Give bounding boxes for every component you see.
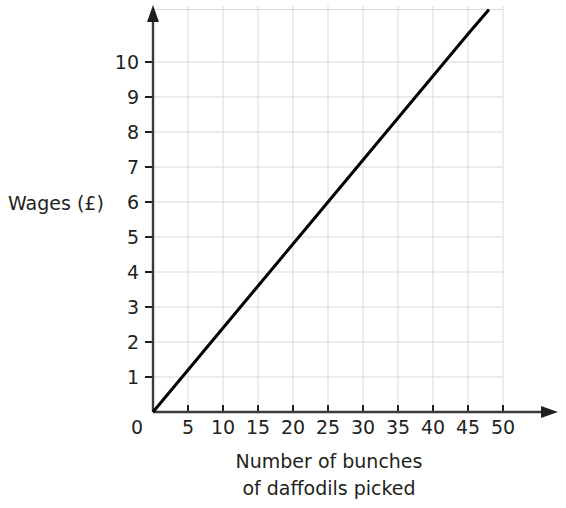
y-tick-label: 9 (127, 86, 139, 108)
chart-figure: Wages (£) 05101520253035404550 123456789… (0, 0, 566, 508)
x-tick-label: 5 (182, 416, 194, 438)
y-tick-label: 8 (127, 121, 139, 143)
y-axis-tick-labels: 12345678910 (115, 51, 139, 388)
x-tick-label: 20 (281, 416, 305, 438)
x-tick-label: 50 (491, 416, 515, 438)
y-tick-label: 3 (127, 296, 139, 318)
x-axis-tick-labels: 05101520253035404550 (131, 416, 515, 438)
data-series-line (153, 10, 489, 413)
y-tick-label: 4 (127, 261, 139, 283)
x-axis-label-line2: of daffodils picked (153, 475, 505, 502)
x-tick-label: 45 (456, 416, 480, 438)
x-axis-arrow-icon (541, 406, 558, 418)
x-tick-label: 25 (316, 416, 340, 438)
y-tick-label: 1 (127, 366, 139, 388)
chart-plot-area: 05101520253035404550 12345678910 (0, 0, 566, 508)
x-tick-label: 15 (246, 416, 270, 438)
x-tick-label: 40 (421, 416, 445, 438)
y-tick-label: 7 (127, 156, 139, 178)
y-axis-arrow-icon (147, 5, 159, 22)
x-tick-label: 30 (351, 416, 375, 438)
x-tick-label: 10 (211, 416, 235, 438)
y-tick-label: 2 (127, 331, 139, 353)
x-tick-label: 0 (131, 416, 143, 438)
x-axis-label: Number of bunches of daffodils picked (153, 448, 505, 502)
x-axis-label-line1: Number of bunches (153, 448, 505, 475)
y-tick-label: 6 (127, 191, 139, 213)
y-tick-label: 10 (115, 51, 139, 73)
x-tick-label: 35 (386, 416, 410, 438)
y-tick-label: 5 (127, 226, 139, 248)
